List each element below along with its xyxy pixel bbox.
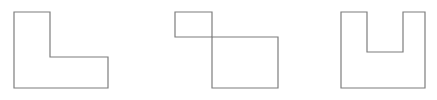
u-shape-outline (341, 12, 425, 88)
l-shape-outline (14, 12, 108, 88)
figure-canvas (0, 0, 437, 100)
small-rectangle-outline (175, 12, 212, 37)
large-rectangle-outline (212, 37, 278, 88)
shapes-svg (0, 0, 437, 100)
